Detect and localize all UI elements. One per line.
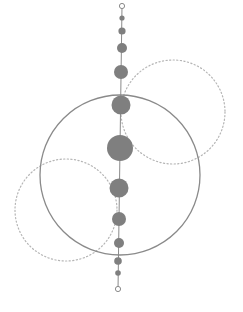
dotted-circle-2: [15, 159, 117, 261]
dotted-circle-1: [121, 60, 225, 164]
filled-node-8: [110, 179, 129, 198]
filled-node-2: [119, 15, 124, 20]
concentric-orbit-diagram: [0, 0, 243, 312]
filled-node-9: [112, 212, 126, 226]
filled-node-3: [118, 27, 125, 34]
filled-node-10: [114, 238, 124, 248]
filled-node-11: [114, 257, 122, 265]
filled-node-7: [107, 135, 133, 161]
filled-node-4: [117, 43, 127, 53]
node-circles: [107, 3, 133, 291]
filled-node-12: [115, 270, 121, 276]
filled-node-6: [112, 96, 131, 115]
filled-node-5: [114, 65, 128, 79]
hollow-node-1: [119, 3, 124, 8]
diagram-canvas: [0, 0, 243, 312]
hollow-node-13: [115, 286, 120, 291]
